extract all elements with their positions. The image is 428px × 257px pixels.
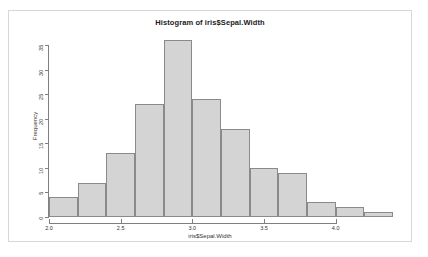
x-axis: 2.02.53.03.54.0 — [49, 217, 393, 225]
x-axis-tick — [49, 219, 50, 224]
histogram-bar — [336, 207, 365, 217]
x-axis-tick — [121, 219, 122, 224]
x-axis-tick-label: 3.0 — [189, 226, 197, 232]
x-axis-tick — [192, 219, 193, 224]
histogram-bar — [278, 173, 307, 217]
x-axis-tick-label: 4.0 — [332, 226, 340, 232]
histogram-bar — [135, 104, 164, 217]
y-axis-tick-label: 5 — [39, 192, 45, 195]
y-axis-title: Frequency — [32, 112, 38, 140]
histogram-bar — [78, 183, 107, 217]
y-axis-tick-label: 20 — [39, 118, 45, 124]
x-axis-tick — [336, 219, 337, 224]
y-axis-tick-label: 35 — [39, 45, 45, 51]
y-axis-tick-label: 10 — [39, 168, 45, 174]
x-axis-tick — [264, 219, 265, 224]
figure-frame: Histogram of iris$Sepal.Width Frequency … — [8, 10, 412, 242]
x-axis-tick-label: 2.5 — [117, 226, 125, 232]
plot-area — [49, 45, 393, 217]
x-axis-tick-label: 3.5 — [260, 226, 268, 232]
y-axis-tick-label: 15 — [39, 143, 45, 149]
histogram-bar — [106, 153, 135, 217]
chart-title: Histogram of iris$Sepal.Width — [9, 18, 411, 27]
histogram-bar — [164, 40, 193, 217]
histogram-bar — [192, 99, 221, 217]
histogram-bars — [49, 45, 393, 217]
histogram-bar — [250, 168, 279, 217]
histogram-bar — [221, 129, 250, 217]
x-axis-title: iris$Sepal.Width — [9, 233, 411, 239]
x-axis-tick-label: 2.0 — [45, 226, 53, 232]
histogram-bar — [307, 202, 336, 217]
y-axis-tick-label: 30 — [39, 69, 45, 75]
y-axis-tick-label: 0 — [39, 217, 45, 220]
y-axis-tick-label: 25 — [39, 94, 45, 100]
histogram-bar — [49, 197, 78, 217]
